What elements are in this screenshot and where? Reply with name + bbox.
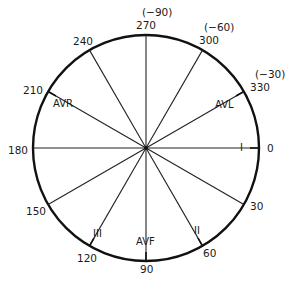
axis-spoke-240 bbox=[90, 50, 147, 148]
degree-label-150: 150 bbox=[26, 205, 46, 217]
center-point bbox=[144, 146, 148, 150]
lead-label-AVR: AVR bbox=[53, 98, 73, 109]
degree-label-120: 120 bbox=[77, 252, 97, 264]
axis-spoke-30 bbox=[146, 148, 244, 205]
lead-label-AVL: AVL bbox=[215, 99, 234, 110]
lead-label-I: I bbox=[240, 142, 243, 153]
degree-label-330: 330 bbox=[250, 81, 270, 93]
lead-label-III: III bbox=[93, 228, 102, 239]
degree-label-180: 180 bbox=[8, 144, 28, 156]
degree-label-60: 60 bbox=[203, 247, 216, 259]
lead-tick-330 bbox=[236, 92, 244, 97]
degree-label-270: 270 bbox=[136, 19, 156, 31]
degree-label-270-alt: (−90) bbox=[142, 6, 172, 18]
axis-spoke-300 bbox=[146, 50, 203, 148]
degree-label-210: 210 bbox=[23, 84, 43, 96]
degree-label-30: 30 bbox=[250, 200, 263, 212]
axis-spoke-150 bbox=[48, 148, 146, 205]
degree-label-300: 300 bbox=[199, 34, 219, 46]
lead-tick-210 bbox=[48, 92, 56, 97]
degree-label-240: 240 bbox=[73, 35, 93, 47]
degree-label-330-alt: (−30) bbox=[255, 68, 285, 80]
degree-label-90: 90 bbox=[140, 263, 153, 275]
lead-label-AVF: AVF bbox=[136, 236, 155, 247]
lead-label-II: II bbox=[194, 225, 200, 236]
lead-tick-60 bbox=[198, 238, 203, 246]
hexaxial-diagram: 0 30 60 90 120 150 180 210 240 270 (−90)… bbox=[0, 0, 286, 282]
degree-label-300-alt: (−60) bbox=[204, 21, 234, 33]
degree-label-0: 0 bbox=[267, 142, 274, 154]
lead-tick-120 bbox=[90, 238, 95, 246]
